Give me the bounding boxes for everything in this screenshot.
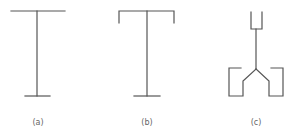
panel-a-label: (a) xyxy=(32,118,43,127)
panel-c-right-branch xyxy=(256,68,283,96)
panel-a: (a) xyxy=(11,11,65,127)
panel-c-label: (c) xyxy=(251,118,262,127)
panel-c-top-cup xyxy=(251,12,262,29)
panel-c-left-branch xyxy=(229,68,256,96)
panel-b-label: (b) xyxy=(141,118,152,127)
panel-c: (c) xyxy=(229,12,283,127)
diagram-canvas: (a) (b) (c) xyxy=(0,0,295,136)
panel-b: (b) xyxy=(119,11,174,127)
